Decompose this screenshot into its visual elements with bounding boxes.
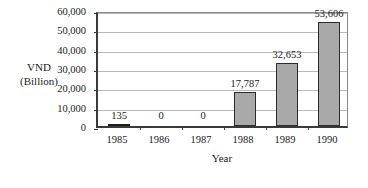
y-axis-tick-label: 40,000 xyxy=(36,46,86,56)
y-axis-tick-label: 60,000 xyxy=(36,7,86,17)
x-axis-title: Year xyxy=(96,152,348,165)
bar-slot: 0 xyxy=(140,13,182,126)
bar-slot: 53,606 xyxy=(308,13,350,126)
x-axis-tick-label: 1990 xyxy=(317,134,338,146)
bar-slot: 0 xyxy=(182,13,224,126)
bar-series: 1350017,78732,65353,606 xyxy=(98,13,347,126)
bar-value-label: 135 xyxy=(111,110,127,121)
x-axis-tick-mark xyxy=(140,126,141,130)
bar-value-label: 0 xyxy=(200,110,205,121)
x-axis-tick-label: 1986 xyxy=(149,134,170,146)
y-axis-tick-mark xyxy=(94,129,98,130)
y-axis-tick-label: 30,000 xyxy=(36,65,86,75)
bar-slot: 17,787 xyxy=(224,13,266,126)
y-axis-tick-label: 50,000 xyxy=(36,26,86,36)
bar-slot: 32,653 xyxy=(266,13,308,126)
bar-chart-figure: VND (Billion) 010,00020,00030,00040,0005… xyxy=(0,0,368,188)
bar-value-label: 53,606 xyxy=(315,8,344,19)
x-axis-tick-label: 1987 xyxy=(191,134,212,146)
bar[interactable] xyxy=(234,92,256,126)
bar-slot: 135 xyxy=(98,13,140,126)
y-axis-tick-label: 10,000 xyxy=(36,104,86,114)
x-axis-tick-mark xyxy=(224,126,225,130)
y-axis-tick-label: 20,000 xyxy=(36,84,86,94)
x-axis-tick-mark xyxy=(182,126,183,130)
plot-area: 1350017,78732,65353,606 xyxy=(96,12,348,128)
x-axis-tick-label: 1988 xyxy=(233,134,254,146)
x-axis-tick-mark xyxy=(266,126,267,130)
x-axis-tick-mark xyxy=(308,126,309,130)
x-axis-tick-label: 1985 xyxy=(107,134,128,146)
x-axis-tick-label: 1989 xyxy=(275,134,296,146)
x-axis-tick-labels: 198519861987198819891990 xyxy=(96,134,348,150)
bar-value-label: 0 xyxy=(158,110,163,121)
bar[interactable] xyxy=(318,22,340,126)
y-axis-tick-labels: 010,00020,00030,00040,00050,00060,000 xyxy=(36,12,86,128)
bar[interactable] xyxy=(108,124,130,127)
y-axis-tick-label: 0 xyxy=(36,123,86,133)
bar-value-label: 17,787 xyxy=(231,78,260,89)
bar-value-label: 32,653 xyxy=(273,49,302,60)
bar[interactable] xyxy=(276,63,298,126)
